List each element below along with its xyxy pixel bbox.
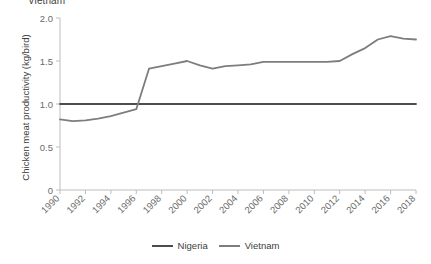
x-axis-tick-label: 2006: [242, 193, 265, 216]
y-axis-tick-label: 1.0: [40, 99, 53, 110]
x-axis-tick-label: 2002: [191, 193, 214, 216]
x-axis-tick-label: 2008: [268, 193, 291, 216]
legend-swatch-vietnam: [219, 245, 240, 247]
legend-label: Vietnam: [245, 240, 280, 251]
y-axis-tick-label: 0.5: [40, 142, 53, 153]
x-axis-tick-label: 1992: [64, 193, 87, 216]
x-axis-tick-label: 2014: [344, 193, 367, 216]
x-axis-tick-label: 2016: [369, 193, 392, 216]
legend-entry-vietnam[interactable]: Vietnam: [219, 240, 280, 251]
x-axis-tick-label: 1994: [90, 193, 113, 216]
legend-entry-nigeria[interactable]: Nigeria: [152, 240, 208, 251]
line-chart-plot: 00.51.01.52.0199019921994199619982000200…: [0, 0, 431, 264]
series-line-vietnam: [60, 36, 416, 121]
y-axis-tick-label: 2.0: [40, 13, 53, 24]
chart-legend: NigeriaVietnam: [0, 240, 431, 251]
x-axis-tick-label: 1996: [115, 193, 138, 216]
x-axis-tick-label: 2018: [395, 193, 418, 216]
x-axis-tick-label: 2004: [217, 193, 240, 216]
x-axis-tick-label: 2000: [166, 193, 189, 216]
legend-label: Nigeria: [178, 240, 208, 251]
y-axis-tick-label: 1.5: [40, 56, 53, 67]
x-axis-tick-label: 1990: [39, 193, 62, 216]
legend-swatch-nigeria: [152, 245, 173, 247]
x-axis-tick-label: 2012: [318, 193, 341, 216]
chart-container: Vietnam Chicken meat productivity (kg/bi…: [0, 0, 431, 264]
x-axis-tick-label: 1998: [140, 193, 163, 216]
x-axis-tick-label: 2010: [293, 193, 316, 216]
